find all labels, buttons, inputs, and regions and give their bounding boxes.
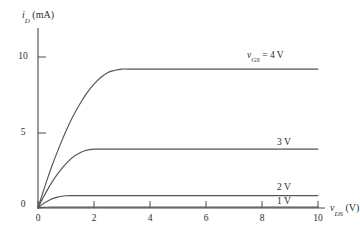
y-tick-label-5: 5 <box>14 128 32 138</box>
x-axis-title-subscript: DS <box>334 210 343 218</box>
x-axis-title-unit: (V) <box>346 202 360 213</box>
curve-vgs-3v <box>38 149 318 208</box>
y-axis-title-unit: (mA) <box>32 9 54 20</box>
curve-label-subscript: GS <box>251 56 260 64</box>
jfet-drain-characteristics-figure: iD (mA) vDS (V) 10 5 0 0 2 4 6 8 10 vGS … <box>0 0 360 242</box>
x-tick-label-2: 2 <box>85 214 103 224</box>
x-tick-label-10: 10 <box>309 214 327 224</box>
x-tick-label-4: 4 <box>141 214 159 224</box>
y-origin-label: 0 <box>14 200 32 210</box>
y-axis-ticks <box>38 57 46 133</box>
x-tick-label-0: 0 <box>29 214 47 224</box>
curve-label-value: = 4 V <box>262 50 284 60</box>
x-tick-label-6: 6 <box>197 214 215 224</box>
x-tick-label-8: 8 <box>253 214 271 224</box>
curve-vgs-4v <box>38 69 318 208</box>
curve-label-vgs-3v: 3 V <box>277 138 291 148</box>
x-axis-title: vDS (V) <box>330 203 359 216</box>
curve-vgs-2v <box>38 196 318 208</box>
curve-label-vgs-2v: 2 V <box>277 183 291 193</box>
y-axis-title-subscript: D <box>25 17 30 25</box>
curve-label-vgs-1v: 1 V <box>277 197 291 207</box>
curve-group <box>38 69 318 208</box>
curve-label-vgs-4v: vGS = 4 V <box>247 51 284 63</box>
y-axis-title: iD (mA) <box>22 10 54 23</box>
y-tick-label-10: 10 <box>14 52 32 62</box>
plot-canvas <box>0 0 360 242</box>
